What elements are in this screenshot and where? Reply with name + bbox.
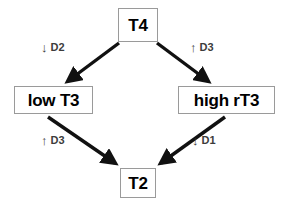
node-high-rt3-label: high rT3 [194,92,259,109]
node-t2-label: T2 [128,175,147,192]
edge-label-d2: ↓ D2 [41,41,65,54]
edge-label-d3-right: ↑ D3 [190,41,214,54]
edge-t4-to-low-t3 [68,43,119,81]
node-t2: T2 [120,168,156,198]
edge-label-d2-text: D2 [51,42,65,53]
diagram-canvas: T4 low T3 high rT3 T2 ↓ D2 ↑ D3 ↑ D3 ↓ D… [0,0,283,202]
down-arrow-icon: ↓ [41,41,48,54]
up-arrow-icon: ↑ [41,134,48,147]
node-t4: T4 [118,8,158,42]
up-arrow-icon: ↑ [190,41,197,54]
edge-label-d1-text: D1 [202,135,216,146]
edge-label-d3-left: ↑ D3 [41,134,65,147]
node-low-t3-label: low T3 [28,92,80,109]
edge-label-d3-left-text: D3 [51,135,65,146]
node-t4-label: T4 [128,17,147,34]
edge-label-d3-right-text: D3 [200,42,214,53]
edge-label-d1: ↓ D1 [192,134,216,147]
node-high-rt3: high rT3 [178,86,275,114]
down-arrow-icon: ↓ [192,134,199,147]
node-low-t3: low T3 [14,86,93,114]
